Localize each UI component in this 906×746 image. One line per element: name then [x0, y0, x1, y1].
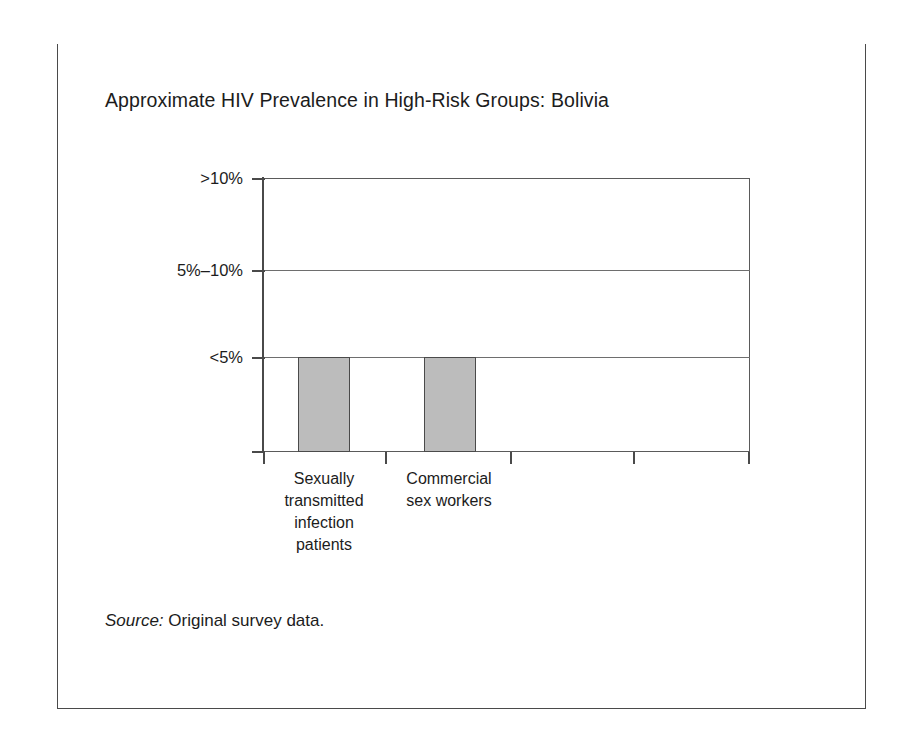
- plot-area: >10% 5%–10% <5% Sexually transmitted inf…: [263, 178, 750, 452]
- source-note: Source: Original survey data.: [105, 611, 324, 631]
- y-tick-label-5-10: 5%–10%: [177, 261, 243, 280]
- category-line: Commercial: [387, 468, 511, 490]
- y-tick-over-10: [252, 178, 265, 180]
- x-tick-1: [385, 452, 387, 464]
- category-label-sti-patients: Sexually transmitted infection patients: [263, 468, 385, 556]
- y-tick-under-5: [252, 357, 265, 359]
- source-text: Original survey data.: [164, 611, 325, 630]
- category-line: sex workers: [387, 490, 511, 512]
- chart-title: Approximate HIV Prevalence in High-Risk …: [105, 89, 609, 112]
- category-line: transmitted: [263, 490, 385, 512]
- x-tick-3: [633, 452, 635, 464]
- y-tick-label-over-10: >10%: [200, 169, 243, 188]
- category-label-commercial-sex-workers: Commercial sex workers: [387, 468, 511, 512]
- category-line: infection: [263, 512, 385, 534]
- x-tick-4: [748, 452, 750, 464]
- gridline-5-10: [263, 270, 750, 271]
- y-tick-label-under-5: <5%: [210, 348, 243, 367]
- y-axis-line: [262, 177, 264, 453]
- source-label: Source:: [105, 611, 164, 630]
- bar-commercial-sex-workers[interactable]: [424, 357, 476, 452]
- figure-page: Approximate HIV Prevalence in High-Risk …: [0, 0, 906, 746]
- category-line: patients: [263, 534, 385, 556]
- category-line: Sexually: [263, 468, 385, 490]
- x-tick-0: [263, 452, 265, 464]
- bar-sti-patients[interactable]: [298, 357, 350, 452]
- y-tick-5-10: [252, 270, 265, 272]
- x-tick-2: [510, 452, 512, 464]
